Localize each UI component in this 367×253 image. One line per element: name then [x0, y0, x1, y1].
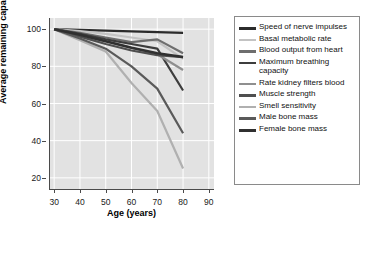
legend-item: Maximum breathing capacity	[239, 57, 355, 76]
y-tick-label: 60	[32, 99, 41, 109]
x-tick-label: 90	[204, 197, 213, 207]
y-tick-label: 100	[27, 24, 41, 34]
y-tick-mark	[42, 29, 46, 30]
legend-color-swatch	[239, 39, 256, 42]
y-tick-label: 40	[32, 136, 41, 146]
legend-item-label: Female bone mass	[259, 124, 327, 134]
legend-color-swatch	[239, 117, 256, 120]
legend-item-label: Rate kidney filters blood	[259, 78, 344, 88]
x-tick-label: 30	[49, 197, 58, 207]
legend-item: Basal metabolic rate	[239, 34, 355, 44]
legend-item: Muscle strength	[239, 89, 355, 99]
legend-color-swatch	[239, 129, 256, 132]
plot-area: 30405060708090	[49, 18, 214, 189]
figure-line-chart: Average remaining capacity (%) 204060801…	[0, 0, 367, 253]
y-tick-mark	[42, 104, 46, 105]
legend-item-label: Blood output from heart	[259, 45, 343, 55]
legend-item: Female bone mass	[239, 124, 355, 134]
legend-item: Male bone mass	[239, 112, 355, 122]
legend-item-label: Smell sensitivity	[259, 101, 316, 111]
axis-spine-left	[49, 18, 50, 189]
y-axis-ticks: 20406080100	[0, 18, 46, 189]
legend-color-swatch	[239, 27, 256, 30]
x-axis-title: Age (years)	[49, 208, 214, 218]
x-tick-label: 50	[101, 197, 110, 207]
x-tick-label: 40	[75, 197, 84, 207]
y-tick-mark	[42, 66, 46, 67]
legend-item-label: Male bone mass	[259, 112, 318, 122]
axis-spine-bottom	[49, 189, 214, 190]
legend-item-label: Basal metabolic rate	[259, 34, 331, 44]
legend-item: Smell sensitivity	[239, 101, 355, 111]
y-tick-label: 80	[32, 61, 41, 71]
legend-color-swatch	[239, 106, 256, 109]
chart-legend: Speed of nerve impulsesBasal metabolic r…	[234, 16, 360, 185]
y-tick-label: 20	[32, 173, 41, 183]
legend-item-label: Maximum breathing capacity	[259, 57, 355, 76]
legend-item-label: Speed of nerve impulses	[259, 22, 347, 32]
legend-color-swatch	[239, 50, 256, 53]
x-tick-label: 70	[153, 197, 162, 207]
legend-item: Blood output from heart	[239, 45, 355, 55]
x-tick-label: 60	[127, 197, 136, 207]
legend-item: Rate kidney filters blood	[239, 78, 355, 88]
legend-item-label: Muscle strength	[259, 89, 315, 99]
legend-color-swatch	[239, 94, 256, 97]
legend-color-swatch	[239, 83, 256, 86]
y-tick-mark	[42, 141, 46, 142]
chart-lines	[49, 18, 214, 189]
x-tick-label: 80	[178, 197, 187, 207]
y-tick-mark	[42, 178, 46, 179]
legend-color-swatch	[239, 62, 256, 65]
legend-item: Speed of nerve impulses	[239, 22, 355, 32]
